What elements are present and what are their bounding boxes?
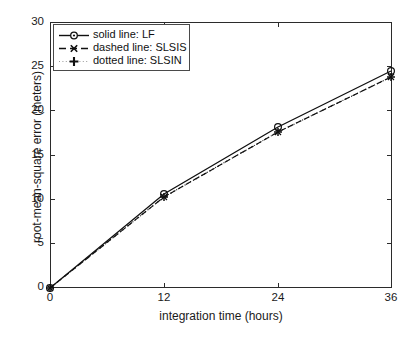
legend-label-lf: solid line: LF — [91, 28, 155, 41]
y-tickmark-5 — [50, 243, 55, 244]
legend-entry-slsis: dashed line: SLSIS — [57, 41, 185, 54]
legend: solid line: LF dashed line: SLSIS dotted… — [53, 24, 190, 71]
x-axis-label: integration time (hours) — [50, 309, 392, 323]
x-tickmark-12 — [164, 283, 165, 288]
x-tickmark-top-24 — [278, 22, 279, 27]
y-tick-label-0: 0 — [0, 281, 44, 293]
legend-sample-dotted-plus — [57, 54, 91, 67]
y-tickmark-right-25 — [387, 66, 392, 67]
y-tickmark-right-5 — [387, 243, 392, 244]
legend-entry-lf: solid line: LF — [57, 28, 185, 41]
legend-sample-dashed-x — [57, 41, 91, 54]
x-tickmark-36 — [391, 283, 392, 288]
y-axis-label: root-mean-square error (meters) — [30, 42, 44, 272]
x-tick-label-24: 24 — [258, 292, 298, 304]
x-tick-label-36: 36 — [371, 292, 411, 304]
x-tickmark-top-0 — [50, 22, 51, 27]
legend-entry-slsin: dotted line: SLSIN — [57, 54, 185, 67]
legend-sample-solid-circle — [57, 28, 91, 41]
y-tickmark-right-20 — [387, 110, 392, 111]
x-tickmark-0 — [50, 283, 51, 288]
y-tickmark-right-10 — [387, 199, 392, 200]
y-tickmark-15 — [50, 155, 55, 156]
x-tick-label-0: 0 — [30, 292, 70, 304]
x-tickmark-24 — [278, 283, 279, 288]
y-tick-label-30: 30 — [0, 16, 44, 28]
y-tickmark-10 — [50, 199, 55, 200]
chart-figure: 30 25 20 15 10 5 0 0 12 24 36 integratio… — [0, 0, 412, 337]
x-tickmark-top-36 — [391, 22, 392, 27]
legend-label-slsis: dashed line: SLSIS — [91, 41, 187, 54]
legend-label-slsin: dotted line: SLSIN — [91, 54, 182, 67]
y-tickmark-20 — [50, 110, 55, 111]
y-tickmark-right-15 — [387, 155, 392, 156]
x-tick-label-12: 12 — [144, 292, 184, 304]
